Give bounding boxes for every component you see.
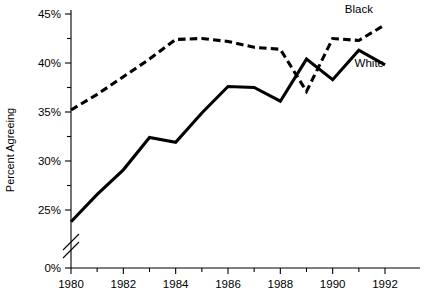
x-tick-label: 1980 [58,278,84,290]
y-tick-label: 35% [38,106,61,118]
chart-container: 0%25%30%35%40%45% 1980198219841986198819… [0,0,428,305]
y-tick-label: 40% [38,57,61,69]
x-tick-label: 1992 [372,278,398,290]
y-tick-label: 25% [38,204,61,216]
series-line-white [71,50,385,222]
series-line-black [71,25,385,110]
x-tick-label: 1988 [268,278,294,290]
x-tick-label: 1982 [111,278,137,290]
y-axis-title: Percent Agreeing [4,108,16,192]
y-axis-ticks [65,14,71,268]
series-label-black: Black [345,3,373,15]
y-tick-label: 30% [38,155,61,167]
x-tick-label: 1986 [215,278,241,290]
y-tick-label: 0% [44,262,61,274]
y-axis-tick-labels: 0%25%30%35%40%45% [38,8,61,274]
x-tick-label: 1984 [163,278,189,290]
data-series-group [71,25,385,222]
x-axis-tick-labels: 1980198219841986198819901992 [58,278,398,290]
series-label-white: White [355,57,384,69]
y-tick-label: 45% [38,8,61,20]
x-tick-label: 1990 [320,278,346,290]
x-axis-ticks [71,268,385,274]
line-chart: 0%25%30%35%40%45% 1980198219841986198819… [0,0,428,305]
